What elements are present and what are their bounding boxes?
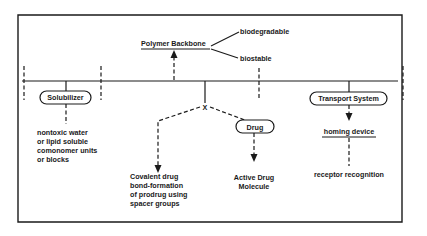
polymer-backbone-label: Polymer Backbone bbox=[141, 39, 206, 48]
solubilizer-desc-3: comonomer units bbox=[37, 146, 97, 155]
arrow-up-icon bbox=[171, 50, 178, 58]
biostable-label: biostable bbox=[240, 54, 272, 63]
covalent-desc-3: of prodrug using bbox=[130, 190, 188, 199]
solubilizer-desc-2: or lipid soluble bbox=[37, 137, 88, 146]
biodegradable-label: biodegradable bbox=[240, 27, 289, 36]
linker-to-covalent-line bbox=[158, 107, 200, 166]
covalent-desc-2: bond-formation bbox=[130, 181, 183, 190]
branch-line-biodegradable bbox=[211, 32, 239, 46]
homing-device-label: homing device bbox=[324, 127, 374, 136]
branch-line-biostable bbox=[211, 49, 238, 58]
solubilizer-desc-4: or blocks bbox=[37, 155, 69, 164]
diagram-frame bbox=[18, 15, 402, 222]
polymer-drug-conjugate-diagram: Polymer Backbone biodegradable biostable… bbox=[0, 0, 427, 236]
drug-label: Drug bbox=[247, 123, 264, 132]
active-drug-desc-2: Molecule bbox=[239, 182, 270, 191]
arrow-down-icon bbox=[346, 113, 353, 121]
active-drug-desc-1: Active Drug bbox=[234, 173, 274, 182]
covalent-desc-4: spacer groups bbox=[130, 199, 180, 208]
linker-x-label: X bbox=[203, 103, 208, 112]
solubilizer-label: Solubilizer bbox=[47, 93, 84, 102]
receptor-recognition-label: receptor recognition bbox=[314, 170, 384, 179]
arrow-down-icon bbox=[251, 154, 258, 162]
transport-system-label: Transport System bbox=[318, 94, 379, 103]
covalent-desc-1: Covalent drug bbox=[130, 172, 178, 181]
solubilizer-desc-1: nontoxic water bbox=[37, 128, 88, 137]
